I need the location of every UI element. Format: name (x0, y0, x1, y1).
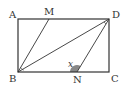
label-a: A (8, 9, 17, 20)
geometry-diagram: A M D B N C x (0, 0, 127, 95)
label-m: M (44, 6, 54, 17)
segment-dn (77, 19, 109, 72)
angle-mark-d (104, 22, 106, 24)
label-n: N (73, 74, 82, 85)
label-b: B (9, 73, 16, 84)
label-c: C (111, 73, 119, 84)
angle-mark-b1 (21, 68, 23, 70)
segment-bd (18, 19, 109, 72)
label-d: D (112, 9, 120, 20)
angle-label-x: x (68, 59, 73, 69)
segment-bm (18, 19, 49, 72)
